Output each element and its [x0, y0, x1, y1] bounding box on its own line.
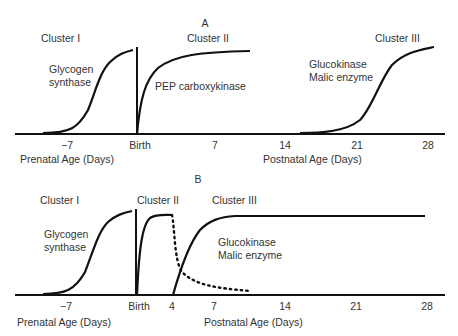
diagram-canvas — [0, 0, 458, 336]
panel-b-tick: 21 — [350, 300, 362, 312]
panel-a-tick: −7 — [61, 139, 73, 151]
panel-a-enzyme-glucokinase: Glucokinase — [309, 58, 367, 70]
panel-a-enzyme-pepck: PEP carboxykinase — [155, 80, 246, 92]
panel-b-cluster3-label: Cluster III — [212, 194, 257, 206]
panel-b-tick: 28 — [421, 300, 433, 312]
panel-b-enzyme-synthase: synthase — [44, 241, 86, 253]
panel-a-cluster1-label: Cluster I — [41, 32, 80, 44]
panel-a-enzyme-glycogen: Glycogen — [49, 63, 93, 75]
panel-a-cluster2-label: Cluster II — [187, 32, 229, 44]
panel-b-xlabel-prenatal: Prenatal Age (Days) — [17, 316, 111, 328]
panel-a-enzyme-malic: Malic enzyme — [309, 71, 373, 83]
panel-a-tick: Birth — [129, 139, 151, 151]
panel-b-xlabel-postnatal: Postnatal Age (Days) — [204, 316, 303, 328]
panel-b-enzyme-glycogen: Glycogen — [44, 228, 88, 240]
panel-a-title: A — [201, 17, 208, 29]
panel-b-cluster1-label: Cluster I — [40, 194, 79, 206]
panel-a-cluster3-label: Cluster III — [375, 32, 420, 44]
panel-b-enzyme-glucokinase: Glucokinase — [218, 236, 276, 248]
panel-b-tick: 14 — [279, 300, 291, 312]
panel-b-title: B — [194, 173, 201, 185]
panel-a-tick: 7 — [212, 139, 218, 151]
panel-b-tick: 7 — [211, 300, 217, 312]
panel-a-xlabel-postnatal: Postnatal Age (Days) — [263, 153, 362, 165]
panel-a-xlabel-prenatal: Prenatal Age (Days) — [20, 153, 114, 165]
panel-a-tick: 28 — [422, 139, 434, 151]
panel-a-cluster2-curve — [137, 51, 250, 134]
panel-a-tick: 14 — [279, 139, 291, 151]
panel-a-enzyme-synthase: synthase — [49, 76, 91, 88]
panel-b-cluster3-curve — [173, 216, 425, 295]
panel-b-enzyme-malic: Malic enzyme — [218, 249, 282, 261]
panel-a-tick: 21 — [351, 139, 363, 151]
panel-b-cluster2-curve — [137, 215, 172, 295]
panel-b-cluster2-label: Cluster II — [137, 194, 179, 206]
panel-b-tick: Birth — [128, 300, 150, 312]
panel-b-tick: 4 — [169, 300, 175, 312]
panel-b-tick: −7 — [60, 300, 72, 312]
